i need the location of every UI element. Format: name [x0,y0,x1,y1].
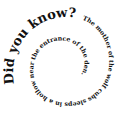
spiral-svg: Did you know? The mother of the wolf cub… [0,0,122,114]
spiral-text: Did you know? The mother of the wolf cub… [1,4,115,109]
spiral-text-graphic: Did you know? The mother of the wolf cub… [0,0,122,114]
body-text: The mother of the wolf cubs sleeps in a … [27,14,115,109]
